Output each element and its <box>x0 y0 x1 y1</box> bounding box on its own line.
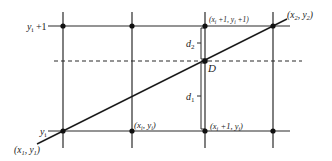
y-bottom-label: yi <box>39 126 46 139</box>
intersection-point-D <box>202 58 208 64</box>
line-segment <box>37 19 287 144</box>
pixel-dot-top-mid <box>129 23 134 28</box>
pixel-dot-bottom-candidate <box>202 128 207 133</box>
y-top-label: yi +1 <box>26 21 47 34</box>
bresenham-diagram: yi +1 yi (x1, y1) (x2, y2) (xi +1, yi +1… <box>0 0 332 161</box>
end-point-label: (x2, y2) <box>287 10 313 21</box>
d2-label: d2 <box>186 38 195 51</box>
pixel-dot-top-left <box>60 23 65 28</box>
intersection-label-D: D <box>207 62 216 74</box>
pixel-dot-top-candidate <box>202 23 207 28</box>
d1-label: d1 <box>186 91 195 104</box>
pixel-dot-top-right <box>270 23 275 28</box>
bottom-right-pixel-label: (xi +1, yi) <box>210 121 243 132</box>
top-pixel-label: (xi +1, yi +1) <box>209 15 249 25</box>
pixel-dot-bottom-left <box>60 128 65 133</box>
pixel-dot-bottom-right <box>270 128 275 133</box>
start-point-label: (x1, y1) <box>14 145 40 156</box>
bottom-left-pixel-label: (xi, yi) <box>134 120 156 131</box>
